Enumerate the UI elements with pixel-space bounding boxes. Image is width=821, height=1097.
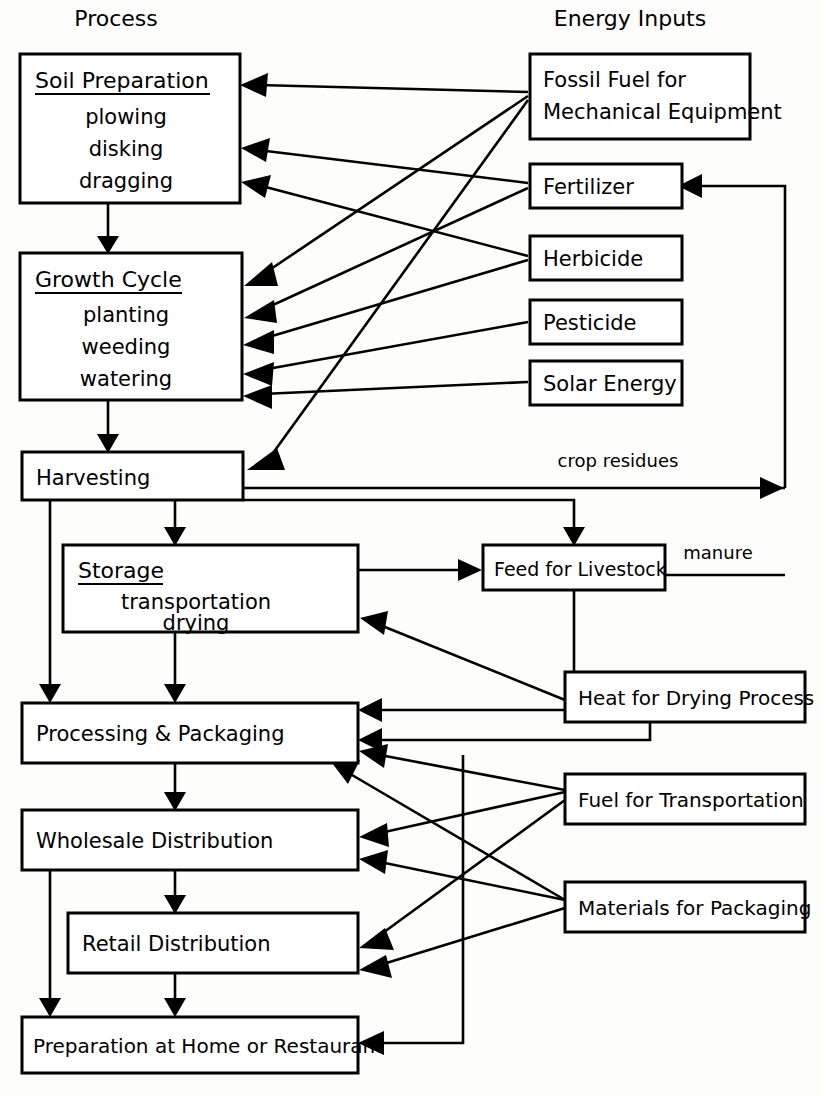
- flow-diagram-canvas: Process Energy Inputs crop residues: [0, 0, 821, 1097]
- edge-herbicide-soilprep: [258, 185, 528, 256]
- edge-fossilfuel-harvesting: [268, 100, 528, 460]
- box-fuel-for-transportation[interactable]: Fuel for Transportation: [565, 774, 805, 824]
- box-title-wholesale-distribution: Wholesale Distribution: [36, 829, 273, 853]
- box-growth-cycle[interactable]: Growth Cycle planting weeding watering: [20, 253, 242, 400]
- box-herbicide[interactable]: Herbicide: [530, 236, 682, 280]
- box-item-planting: planting: [83, 303, 169, 327]
- edge-label-crop-residues: crop residues: [558, 450, 679, 471]
- box-processing-packaging[interactable]: Processing & Packaging: [22, 703, 358, 763]
- box-title-growth-cycle: Growth Cycle: [35, 267, 182, 292]
- arrowhead-harvesting-top: [97, 434, 119, 453]
- arrowhead-growth-3: [243, 330, 274, 354]
- box-title-processing-packaging: Processing & Packaging: [36, 722, 284, 746]
- edge-herbicide-growth: [262, 260, 528, 339]
- box-harvesting[interactable]: Harvesting: [22, 452, 243, 500]
- edge-solar-growth: [262, 382, 528, 394]
- box-title-soil-preparation: Soil Preparation: [35, 68, 209, 93]
- arrowhead-growth-4: [243, 362, 274, 386]
- arrowhead-processing-1: [358, 698, 382, 722]
- arrowhead-growth-5: [243, 385, 272, 409]
- box-wholesale-distribution[interactable]: Wholesale Distribution: [22, 810, 358, 870]
- arrowhead-retail-top: [164, 895, 186, 914]
- edge-fossilfuel-soilprep: [258, 85, 528, 92]
- arrowhead-soilprep-1: [240, 73, 268, 97]
- box-soil-preparation[interactable]: Soil Preparation plowing disking draggin…: [20, 54, 240, 203]
- arrowhead-crop-residues: [760, 477, 784, 499]
- arrowhead-preparation-2: [164, 998, 186, 1017]
- arrowhead-retail-1: [359, 928, 394, 950]
- arrowhead-wholesale-top: [164, 792, 186, 811]
- arrowhead-soilprep-2: [241, 138, 270, 162]
- box-title-storage: Storage: [78, 558, 164, 583]
- edge-materials-retail: [380, 908, 565, 965]
- box-title-herbicide: Herbicide: [543, 247, 643, 271]
- box-title-solar-energy: Solar Energy: [543, 372, 677, 396]
- box-title-fertilizer: Fertilizer: [543, 175, 634, 199]
- box-fertilizer[interactable]: Fertilizer: [530, 164, 682, 208]
- box-heat-for-drying[interactable]: Heat for Drying Process: [565, 672, 814, 722]
- edge-heat-storage: [380, 625, 565, 700]
- arrowhead-processing-top-2: [164, 684, 186, 703]
- arrowhead-growth-1: [244, 262, 278, 286]
- arrowhead-growth-top: [97, 236, 119, 254]
- column-header-energy-inputs: Energy Inputs: [554, 6, 706, 31]
- box-title-heat-for-drying: Heat for Drying Process: [578, 686, 814, 710]
- flow-diagram: Process Energy Inputs crop residues: [0, 0, 821, 1097]
- arrowhead-wholesale-2: [359, 850, 388, 874]
- box-item-dragging: dragging: [79, 169, 173, 193]
- edge-fuel-preparation: [382, 755, 463, 1043]
- box-item-weeding: weeding: [82, 335, 171, 359]
- edge-harvesting-feed: [243, 500, 574, 530]
- edge-label-manure: manure: [683, 542, 752, 563]
- arrowhead-storage-top: [164, 527, 186, 546]
- box-storage[interactable]: Storage transportation drying: [63, 545, 358, 635]
- box-retail-distribution[interactable]: Retail Distribution: [68, 913, 358, 973]
- box-title-retail-distribution: Retail Distribution: [82, 932, 271, 956]
- edge-pesticide-growth: [262, 322, 528, 370]
- box-fossil-fuel[interactable]: Fossil Fuel for Mechanical Equipment: [530, 54, 782, 139]
- edge-fuel-processing: [380, 755, 565, 790]
- arrowhead-growth-2: [244, 300, 277, 323]
- box-preparation-home-restaurant[interactable]: Preparation at Home or Restaurant: [22, 1017, 383, 1073]
- box-materials-for-packaging[interactable]: Materials for Packaging: [565, 882, 811, 932]
- arrowhead-preparation-1: [39, 998, 61, 1017]
- box-item-drying: drying: [163, 611, 230, 635]
- box-title-pesticide: Pesticide: [543, 311, 636, 335]
- box-title-fossil-fuel-line1: Fossil Fuel for: [543, 68, 686, 92]
- box-title-feed-for-livestock: Feed for Livestock: [494, 558, 667, 580]
- arrowhead-storage-right: [360, 611, 388, 635]
- box-title-fossil-fuel-line2: Mechanical Equipment: [543, 100, 782, 124]
- edge-heat-processing: [380, 722, 650, 740]
- box-title-harvesting: Harvesting: [36, 466, 150, 490]
- edge-cropresidues-fertilizer: [700, 186, 785, 488]
- box-pesticide[interactable]: Pesticide: [530, 300, 682, 344]
- column-header-process: Process: [74, 6, 157, 31]
- box-title-fuel-for-transportation: Fuel for Transportation: [578, 788, 804, 812]
- box-item-watering: watering: [80, 367, 172, 391]
- arrowhead-feed-top: [563, 527, 585, 546]
- box-title-preparation-home-restaurant: Preparation at Home or Restaurant: [33, 1034, 383, 1058]
- arrowhead-processing-top-1: [39, 684, 61, 703]
- arrowhead-harvesting-1: [247, 448, 285, 470]
- box-feed-for-livestock[interactable]: Feed for Livestock: [483, 545, 667, 590]
- arrowhead-wholesale-1: [359, 823, 389, 847]
- box-item-plowing: plowing: [85, 105, 167, 129]
- box-title-materials-for-packaging: Materials for Packaging: [578, 896, 811, 920]
- edge-fuel-wholesale: [380, 792, 565, 833]
- arrowhead-soilprep-3: [241, 175, 271, 198]
- arrowhead-retail-2: [359, 955, 392, 978]
- arrowhead-feed-left: [458, 559, 482, 581]
- box-item-disking: disking: [89, 137, 164, 161]
- arrowhead-processing-3: [359, 744, 388, 768]
- box-solar-energy[interactable]: Solar Energy: [530, 361, 682, 405]
